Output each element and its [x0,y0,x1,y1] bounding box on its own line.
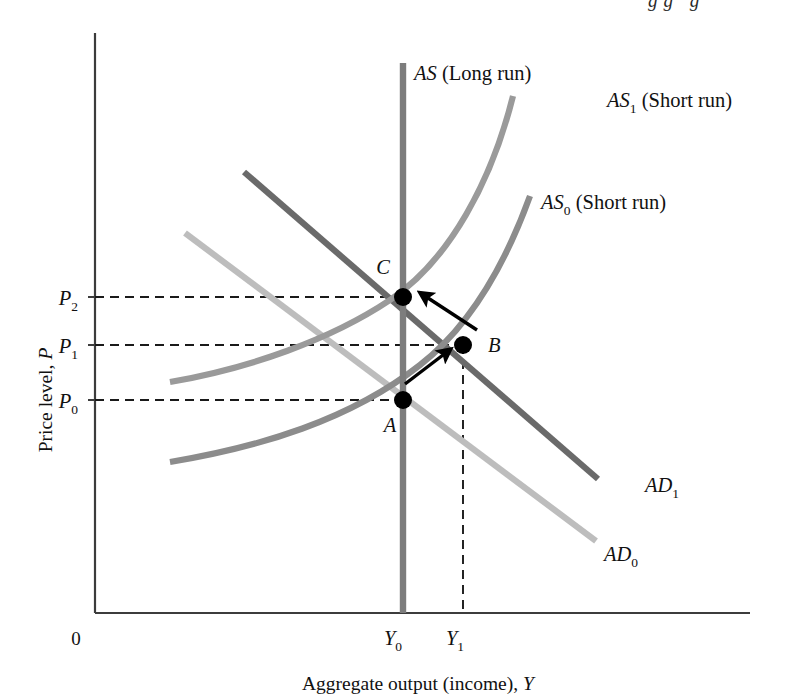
curve-label-ad0-base: AD [602,543,632,565]
x-axis-title-main: Aggregate output (income), [302,673,518,695]
point-a-dot [394,391,412,409]
y-axis-title-main: Price level, [35,365,56,453]
x-tick-label-y1-sub: 1 [457,639,464,654]
curve-label-as1-base: AS [605,89,630,111]
cropped-page-header: gg g [648,0,705,12]
curve-label-ad1-base: AD [643,474,673,496]
origin-label: 0 [71,628,81,649]
curve-label-as1-suffix: (Short run) [637,89,733,112]
x-tick-label-y0: Y0 [384,627,402,654]
y-tick-label-p1-sub: 1 [71,347,78,362]
diagram-canvas: A B C AS (Long run) AS1 (Short run) AS0 … [0,0,785,698]
y-axis-title-var: P [35,348,56,361]
point-label-c: C [376,256,390,278]
curve-label-as0-base: AS [539,191,564,213]
y-tick-label-p0-sub: 0 [71,402,78,417]
y-tick-label-p1-base: P [58,335,72,357]
ad-as-diagram: gg g [0,0,785,698]
y-axis-title: Price level,P [35,348,56,453]
y-tick-label-p1: P1 [58,335,78,362]
x-tick-label-y1: Y1 [446,627,464,654]
y-tick-label-p2-base: P [58,287,72,309]
curve-label-ad0-sub: 0 [631,555,638,570]
y-tick-label-p2-sub: 2 [71,299,78,314]
curve-label-ad1-sub: 1 [672,486,679,501]
point-label-a: A [382,414,397,436]
x-axis-title: Aggregate output (income),Y [302,673,536,695]
dashed-guides [95,297,463,613]
curve-label-as-long-run: AS (Long run) [412,62,531,85]
curve-label-as-long-run-suffix: (Long run) [437,62,532,85]
curve-label-ad0: AD0 [602,543,638,570]
y-tick-label-p0: P0 [58,390,79,417]
point-c-dot [394,288,412,306]
curve-label-as1-sub: 1 [630,101,637,116]
curve-label-ad1: AD1 [643,474,679,501]
curve-label-as1: AS1 (Short run) [605,89,732,116]
x-tick-label-y0-sub: 0 [395,639,402,654]
curve-label-as0: AS0 (Short run) [539,191,666,218]
curve-label-as-long-run-base: AS [412,62,437,84]
point-label-b: B [488,334,501,356]
y-tick-label-p0-base: P [58,390,72,412]
point-b-dot [454,336,472,354]
x-axis-title-var: Y [523,673,536,694]
curve-label-as0-suffix: (Short run) [571,191,667,214]
y-tick-label-p2: P2 [58,287,78,314]
